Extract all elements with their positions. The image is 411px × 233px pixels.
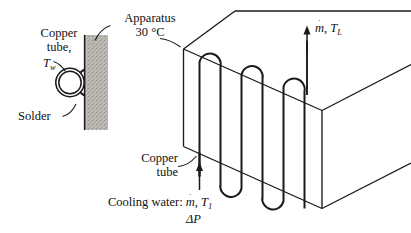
copper-tube-coil-label-line2: tube: [100, 166, 178, 180]
apparatus-box-3d: [184, 11, 411, 209]
serpentine-copper-tube-coil: [200, 54, 305, 210]
leader-copper-tube-coil: [178, 156, 197, 167]
copper-tube-wall-label: Copper tube,: [12, 27, 106, 54]
copper-tube-wall-label-line1: Copper: [12, 27, 106, 41]
wall-temperature-label: Tw: [43, 57, 56, 71]
box-edge-front-top: [184, 49, 323, 111]
apparatus-temperature-value: 30 °C: [105, 26, 195, 40]
copper-tube-coil-label-line1: Copper: [100, 152, 178, 166]
copper-tube-cross-section: [56, 68, 84, 96]
inlet-temperature-subscript: 1: [208, 201, 212, 211]
outlet-arrow-head: [304, 26, 311, 35]
inlet-temperature-symbol: T: [201, 195, 208, 209]
copper-tube-coil-label: Copper tube: [100, 152, 178, 179]
wall-temperature-symbol: T: [43, 56, 50, 70]
apparatus-label: Apparatus 30 °C: [105, 12, 195, 39]
leader-apparatus-to-box: [160, 39, 181, 48]
heat-exchanger-figure: Copper tube, Tw Solder Apparatus 30 °C C…: [0, 0, 411, 233]
inlet-flow-arrow-icon: [196, 162, 203, 190]
tube-inner-wall: [59, 71, 81, 93]
coil-path: [200, 54, 305, 210]
coil-stems: [200, 41, 308, 177]
flow-arrows: [196, 26, 311, 191]
outlet-mass-flow-overdot: ˙: [318, 19, 321, 28]
leader-solder: [63, 104, 77, 117]
inlet-mass-flow-overdot: ˙: [189, 193, 192, 202]
inlet-arrow-head: [196, 162, 203, 171]
box-edge-bottom-right-receding: [322, 163, 411, 209]
solder-label: Solder: [18, 110, 51, 124]
box-edge-top-right-receding: [322, 65, 411, 111]
outlet-flow-arrow-icon: [304, 26, 311, 53]
inlet-flow-label: Cooling water: ˙m, T1: [108, 196, 212, 210]
copper-tube-wall-label-line2: tube,: [12, 41, 106, 55]
outlet-flow-label: ˙m, TL: [315, 22, 342, 36]
pressure-drop-label: ΔP: [186, 213, 201, 227]
apparatus-label-line1: Apparatus: [105, 12, 195, 26]
wall-temperature-subscript: w: [50, 62, 56, 72]
inlet-prefix: Cooling water:: [108, 195, 186, 209]
outlet-temperature-subscript: L: [337, 27, 342, 37]
coil-label-leader: [178, 156, 197, 167]
